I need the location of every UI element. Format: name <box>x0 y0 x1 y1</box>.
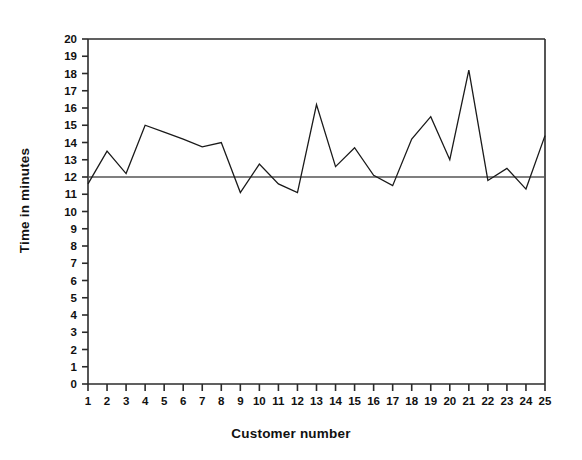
data-series <box>88 70 545 192</box>
x-tick-label: 5 <box>161 395 168 407</box>
x-tick-label: 14 <box>329 395 342 407</box>
y-tick-label: 9 <box>71 223 77 235</box>
y-tick-label: 18 <box>64 68 77 80</box>
x-tick-label: 1 <box>85 395 92 407</box>
plot-area: 01234567891011121314151617181920 1234567… <box>0 0 582 460</box>
y-tick-label: 2 <box>71 344 77 356</box>
x-tick-label: 2 <box>104 395 110 407</box>
y-tick-label: 20 <box>64 33 77 45</box>
x-tick-label: 11 <box>272 395 285 407</box>
y-tick-label: 17 <box>64 85 77 97</box>
x-tick-label: 19 <box>424 395 437 407</box>
x-tick-label: 18 <box>405 395 418 407</box>
x-tick-label: 15 <box>348 395 361 407</box>
plot-frame <box>88 39 545 384</box>
y-tick-label: 1 <box>71 361 78 373</box>
y-tick-label: 8 <box>71 240 78 252</box>
x-tick-label: 7 <box>199 395 205 407</box>
x-tick-label: 10 <box>253 395 266 407</box>
y-tick-label: 5 <box>71 292 78 304</box>
y-axis-ticks: 01234567891011121314151617181920 <box>64 33 88 390</box>
y-tick-label: 19 <box>64 50 77 62</box>
y-tick-label: 14 <box>64 137 77 149</box>
x-axis-ticks: 1234567891011121314151617181920212223242… <box>85 384 552 407</box>
series-line-0 <box>88 70 545 192</box>
x-tick-label: 3 <box>123 395 129 407</box>
y-tick-label: 15 <box>64 119 77 131</box>
y-tick-label: 6 <box>71 275 77 287</box>
x-tick-label: 22 <box>481 395 494 407</box>
y-tick-label: 4 <box>71 309 78 321</box>
y-tick-label: 0 <box>71 378 77 390</box>
y-tick-label: 10 <box>64 206 77 218</box>
x-tick-label: 6 <box>180 395 186 407</box>
x-tick-label: 21 <box>462 395 475 407</box>
y-tick-label: 11 <box>65 188 78 200</box>
y-tick-label: 16 <box>64 102 77 114</box>
x-tick-label: 8 <box>218 395 225 407</box>
x-tick-label: 23 <box>501 395 514 407</box>
y-tick-label: 12 <box>64 171 77 183</box>
x-tick-label: 20 <box>443 395 456 407</box>
x-tick-label: 13 <box>310 395 323 407</box>
x-tick-label: 4 <box>142 395 149 407</box>
chart-figure: Time in minutes Customer number 01234567… <box>0 0 582 460</box>
x-tick-label: 25 <box>539 395 552 407</box>
y-tick-label: 3 <box>71 326 77 338</box>
x-tick-label: 17 <box>386 395 399 407</box>
y-tick-label: 13 <box>64 154 77 166</box>
x-tick-label: 9 <box>237 395 243 407</box>
x-tick-label: 24 <box>520 395 533 407</box>
x-tick-label: 16 <box>367 395 380 407</box>
y-tick-label: 7 <box>71 257 77 269</box>
x-tick-label: 12 <box>291 395 304 407</box>
